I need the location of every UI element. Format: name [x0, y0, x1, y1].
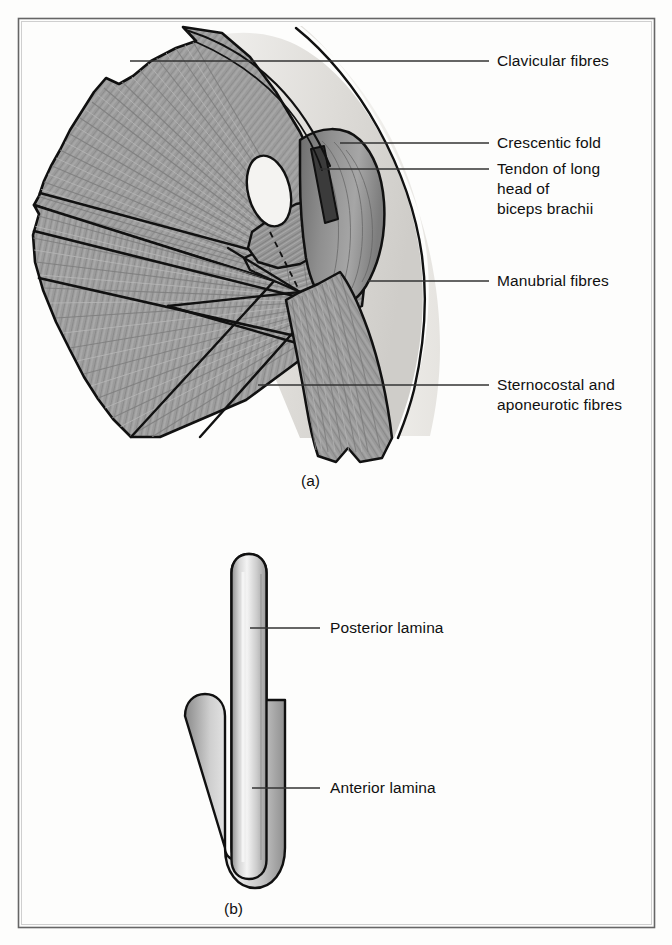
panel-a-caption: (a): [301, 472, 320, 490]
label-anterior-lamina: Anterior lamina: [330, 778, 436, 798]
label-tendon-biceps-line2: head of: [497, 179, 549, 199]
panel-b-caption: (b): [224, 900, 243, 918]
label-tendon-biceps-line3: biceps brachii: [497, 199, 593, 219]
label-manubrial-fibres: Manubrial fibres: [497, 271, 609, 291]
label-crescentic-fold: Crescentic fold: [497, 133, 601, 153]
label-sternocostal-fibres-line1: Sternocostal and: [497, 375, 615, 395]
label-clavicular-fibres: Clavicular fibres: [497, 51, 609, 71]
panel-a-diagram: [33, 26, 489, 462]
label-tendon-biceps-line1: Tendon of long: [497, 159, 600, 179]
figure-root: Clavicular fibres Crescentic fold Tendon…: [0, 0, 672, 945]
panel-b-diagram: [185, 553, 320, 893]
label-posterior-lamina: Posterior lamina: [330, 618, 444, 638]
label-sternocostal-fibres-line2: aponeurotic fibres: [497, 395, 622, 415]
